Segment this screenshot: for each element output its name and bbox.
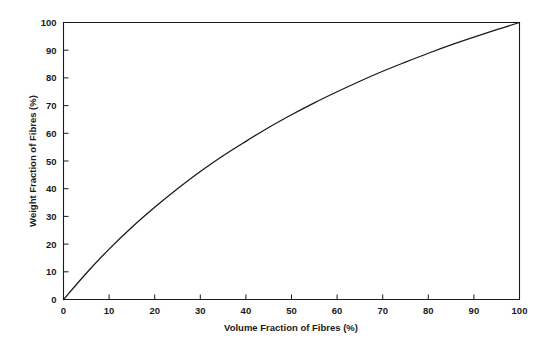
- x-axis-title: Volume Fraction of Fibres (%): [224, 322, 358, 333]
- y-tick-label: 0: [51, 294, 56, 305]
- x-tick-label: 50: [286, 305, 297, 316]
- y-tick-label: 60: [46, 128, 57, 139]
- chart-background: [0, 0, 551, 341]
- chart-figure: 0102030405060708090100 01020304050607080…: [0, 0, 551, 341]
- x-tick-label: 30: [195, 305, 206, 316]
- y-tick-label: 70: [46, 100, 57, 111]
- x-tick-label: 0: [61, 305, 66, 316]
- x-tick-label: 20: [149, 305, 160, 316]
- y-tick-label: 100: [41, 17, 57, 28]
- y-tick-label: 20: [46, 239, 57, 250]
- y-tick-label: 50: [46, 156, 57, 167]
- x-tick-label: 60: [332, 305, 343, 316]
- y-tick-label: 10: [46, 266, 57, 277]
- x-tick-label: 100: [512, 305, 528, 316]
- y-axis-title: Weight Fraction of Fibres (%): [27, 95, 38, 227]
- x-tick-label: 10: [104, 305, 115, 316]
- x-tick-label: 80: [423, 305, 434, 316]
- y-tick-label: 40: [46, 183, 57, 194]
- x-tick-label: 40: [241, 305, 252, 316]
- x-tick-label: 90: [469, 305, 480, 316]
- line-chart: 0102030405060708090100 01020304050607080…: [0, 0, 551, 341]
- y-tick-label: 80: [46, 72, 57, 83]
- x-tick-label: 70: [377, 305, 388, 316]
- y-tick-label: 30: [46, 211, 57, 222]
- y-tick-label: 90: [46, 45, 57, 56]
